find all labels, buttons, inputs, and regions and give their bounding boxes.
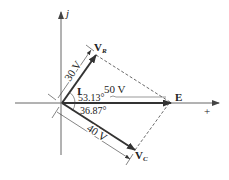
e-magnitude-dimension — [110, 96, 166, 97]
phasor-vr-label: VR — [94, 41, 107, 55]
real-axis-plus-label: + — [204, 105, 210, 117]
vc-angle-label: 36.87° — [80, 105, 107, 116]
angle-arc-vr — [69, 92, 75, 103]
vr-magnitude-label: 30 V — [62, 59, 84, 84]
e-magnitude-label: 50 V — [104, 83, 126, 95]
imaginary-axis-label: j — [64, 7, 69, 19]
vr-angle-label: 53.13° — [78, 92, 105, 103]
phasor-e-label: E — [175, 91, 182, 103]
phasor-vc-label: VC — [135, 149, 148, 163]
phasor-diagram: j + E 50 V VR 30 V I 53.13° 36.87° — [0, 0, 229, 180]
vc-magnitude-label: 40 V — [85, 122, 110, 144]
